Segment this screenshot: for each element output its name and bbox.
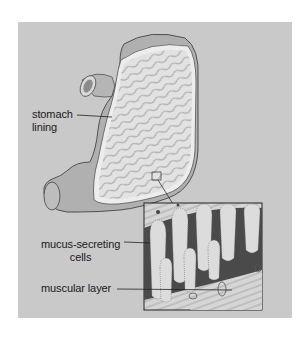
label-line: cells: [41, 251, 120, 264]
label-line: lining: [32, 121, 73, 134]
magnified-inset: [144, 203, 262, 310]
label-mucus-secreting-cells: mucus-secreting cells: [41, 238, 120, 264]
label-stomach-lining: stomach lining: [32, 108, 73, 134]
label-line: mucus-secreting: [41, 238, 120, 251]
label-muscular-layer: muscular layer: [41, 282, 111, 295]
label-line: muscular layer: [41, 282, 111, 295]
label-line: stomach: [32, 108, 73, 121]
